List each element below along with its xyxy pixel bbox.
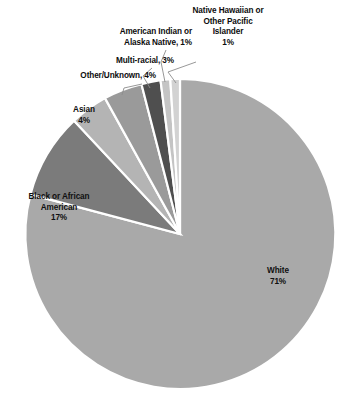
pie-chart: Native Hawaiian or Other Pacific Islande… xyxy=(0,0,358,416)
slice-label-multi-racial: Multi-racial, 3% xyxy=(52,56,174,67)
slice-label-asian: Asian 4% xyxy=(62,105,106,126)
slice-label-white: White 71% xyxy=(248,266,308,287)
slice-label-black-or-african-american: Black or African American 17% xyxy=(4,192,114,224)
slice-label-other-unknown: Other/Unknown, 4% xyxy=(22,71,156,82)
slice-label-american-indian-alaska-native: American Indian or Alaska Native, 1% xyxy=(76,27,192,48)
